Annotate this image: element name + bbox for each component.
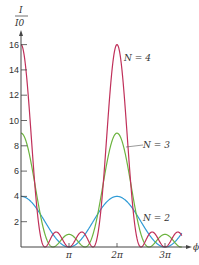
y-tick-label: 4 [14,191,19,201]
y-label-numerator: I [18,5,23,15]
x-label: ϕ [193,242,199,252]
x-tick-label: 3π [159,250,172,260]
y-tick-label: 12 [9,90,19,100]
label-n3: N = 3 [142,140,170,150]
y-tick-label: 10 [9,116,19,126]
curve-n3 [21,133,182,247]
y-axis-arrow-icon [19,30,23,36]
x-tick-label: π [65,250,73,260]
y-tick-label: 14 [9,65,19,75]
x-axis-arrow-icon [186,245,192,249]
label-n2: N = 2 [142,213,170,223]
label-n4: N = 4 [123,53,151,63]
y-tick-label: 6 [14,166,19,176]
interference-chart: 246810121416 π2π3π I I0 ϕ N = 4 N = 3 N … [0,0,199,265]
y-tick-label: 16 [9,40,19,50]
y-ticks: 246810121416 [9,40,27,227]
y-tick-label: 8 [14,141,19,151]
y-tick-label: 2 [14,217,19,227]
y-label-denominator: I0 [14,18,25,28]
leader-n3 [126,145,143,147]
x-tick-label: 2π [110,250,124,260]
